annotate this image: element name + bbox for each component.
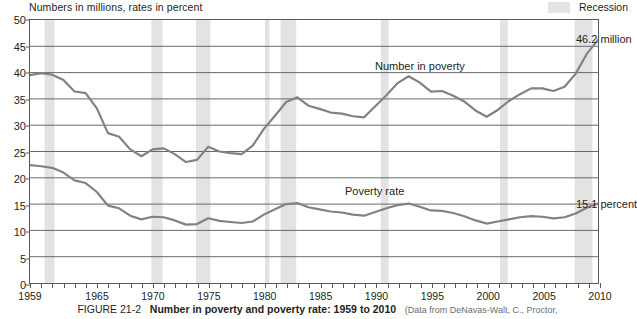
y-axis-tick-mark bbox=[26, 126, 30, 127]
x-axis-tick-mark bbox=[298, 283, 299, 288]
x-axis-tick-mark bbox=[108, 283, 109, 288]
series-line bbox=[30, 165, 598, 224]
y-axis-tick-label: 15 bbox=[14, 200, 26, 212]
x-axis-tick-mark bbox=[220, 283, 221, 288]
x-axis-tick-mark bbox=[488, 283, 489, 288]
axis-units-note: Numbers in millions, rates in percent bbox=[29, 1, 203, 13]
chart-svg bbox=[30, 20, 598, 283]
x-axis-tick-mark bbox=[399, 283, 400, 288]
y-axis-tick-mark bbox=[26, 152, 30, 153]
y-axis-tick-label: 45 bbox=[14, 41, 26, 53]
y-axis-tick-mark bbox=[26, 46, 30, 47]
y-axis-tick-mark bbox=[26, 20, 30, 21]
x-axis-tick-mark bbox=[254, 283, 255, 288]
x-axis-tick-mark bbox=[343, 283, 344, 288]
x-axis-tick-mark bbox=[566, 283, 567, 288]
plot-area: 05101520253035404550 1959196519701975198… bbox=[29, 19, 599, 284]
y-axis-tick-label: 50 bbox=[14, 14, 26, 26]
y-axis-tick-label: 30 bbox=[14, 120, 26, 132]
x-axis-tick-mark bbox=[153, 283, 154, 288]
x-axis-tick-label: 1980 bbox=[253, 290, 276, 302]
x-axis-tick-mark bbox=[466, 283, 467, 288]
x-axis-tick-label: 2005 bbox=[532, 290, 555, 302]
x-axis-tick-mark bbox=[432, 283, 433, 288]
x-axis-tick-mark bbox=[30, 283, 31, 288]
x-axis-tick-label: 1995 bbox=[421, 290, 444, 302]
x-axis-tick-mark bbox=[522, 283, 523, 288]
y-axis-tick-mark bbox=[26, 99, 30, 100]
y-axis-tick-label: 10 bbox=[14, 226, 26, 238]
series-label-number-in-poverty: Number in poverty bbox=[375, 60, 465, 72]
x-axis-tick-mark bbox=[321, 283, 322, 288]
data-lines bbox=[30, 40, 598, 225]
x-axis-tick-mark bbox=[131, 283, 132, 288]
callout-poverty-rate: 15.1 percent bbox=[576, 198, 637, 210]
y-axis-tick-label: 20 bbox=[14, 173, 26, 185]
x-axis-tick-mark bbox=[421, 283, 422, 288]
y-axis-tick-mark bbox=[26, 258, 30, 259]
x-axis-tick-mark bbox=[410, 283, 411, 288]
x-axis-tick-mark bbox=[75, 283, 76, 288]
gridlines bbox=[30, 46, 598, 256]
x-axis-tick-mark bbox=[175, 283, 176, 288]
x-axis-tick-mark bbox=[477, 283, 478, 288]
x-axis-tick-mark bbox=[41, 283, 42, 288]
x-axis-tick-mark bbox=[600, 283, 601, 288]
x-axis-tick-mark bbox=[332, 283, 333, 288]
x-axis-tick-mark bbox=[555, 283, 556, 288]
x-axis-tick-mark bbox=[444, 283, 445, 288]
x-axis-tick-mark bbox=[97, 283, 98, 288]
y-axis-tick-label: 35 bbox=[14, 94, 26, 106]
x-axis-tick-label: 1959 bbox=[18, 290, 41, 302]
caption-title: Number in poverty and poverty rate: 1959… bbox=[150, 303, 396, 315]
x-axis-tick-label: 1970 bbox=[141, 290, 164, 302]
x-axis-tick-mark bbox=[142, 283, 143, 288]
callout-number-in-poverty: 46.2 million bbox=[576, 33, 632, 45]
x-axis-tick-mark bbox=[198, 283, 199, 288]
x-axis-tick-mark bbox=[388, 283, 389, 288]
x-axis-tick-mark bbox=[86, 283, 87, 288]
x-axis-tick-mark bbox=[578, 283, 579, 288]
x-axis-tick-mark bbox=[544, 283, 545, 288]
x-axis-tick-label: 1965 bbox=[85, 290, 108, 302]
figure-caption: FIGURE 21-2 Number in poverty and povert… bbox=[0, 303, 635, 317]
y-axis-tick-label: 25 bbox=[14, 147, 26, 159]
x-axis-tick-mark bbox=[209, 283, 210, 288]
series-line bbox=[30, 40, 598, 162]
x-axis-tick-mark bbox=[365, 283, 366, 288]
y-axis-tick-mark bbox=[26, 232, 30, 233]
x-axis-tick-mark bbox=[511, 283, 512, 288]
x-axis-tick-mark bbox=[589, 283, 590, 288]
x-axis-tick-mark bbox=[164, 283, 165, 288]
y-axis-tick-label: 40 bbox=[14, 67, 26, 79]
x-axis-tick-mark bbox=[265, 283, 266, 288]
x-axis-tick-mark bbox=[276, 283, 277, 288]
x-axis-tick-label: 2010 bbox=[588, 290, 611, 302]
x-axis-tick-mark bbox=[52, 283, 53, 288]
x-axis-tick-mark bbox=[242, 283, 243, 288]
x-axis-tick-label: 1990 bbox=[365, 290, 388, 302]
legend-label-recession: Recession bbox=[579, 1, 628, 13]
x-axis-tick-label: 2000 bbox=[477, 290, 500, 302]
x-axis-tick-mark bbox=[376, 283, 377, 288]
x-axis-tick-mark bbox=[309, 283, 310, 288]
y-axis-tick-mark bbox=[26, 73, 30, 74]
x-axis-tick-mark bbox=[455, 283, 456, 288]
x-axis-tick-label: 1975 bbox=[197, 290, 220, 302]
x-axis-tick-mark bbox=[499, 283, 500, 288]
caption-figure-number: FIGURE 21-2 bbox=[77, 303, 141, 315]
recession-swatch-icon bbox=[548, 2, 570, 13]
y-axis-tick-mark bbox=[26, 205, 30, 206]
legend: Recession bbox=[548, 1, 628, 13]
x-axis-tick-label: 1985 bbox=[309, 290, 332, 302]
series-label-poverty-rate: Poverty rate bbox=[345, 185, 404, 197]
x-axis-tick-mark bbox=[186, 283, 187, 288]
x-axis-tick-mark bbox=[354, 283, 355, 288]
y-axis-tick-mark bbox=[26, 179, 30, 180]
x-axis-tick-mark bbox=[64, 283, 65, 288]
x-axis-tick-mark bbox=[287, 283, 288, 288]
x-axis-tick-mark bbox=[119, 283, 120, 288]
x-axis-tick-mark bbox=[533, 283, 534, 288]
x-axis-tick-mark bbox=[231, 283, 232, 288]
